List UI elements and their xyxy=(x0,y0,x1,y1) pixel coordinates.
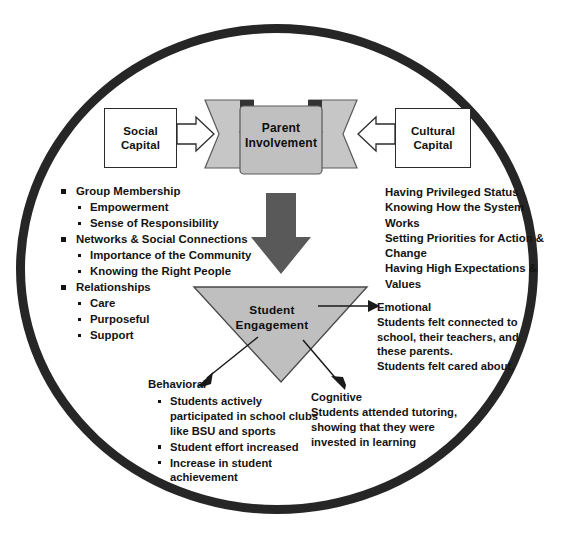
list-item: Group Membership xyxy=(60,184,260,199)
square-bullet-icon xyxy=(78,270,81,273)
list-item: Purposeful xyxy=(60,312,260,327)
emotional-body-line: Students felt connected to school, their… xyxy=(377,315,537,359)
list-item-label: Sense of Responsibility xyxy=(90,217,219,229)
square-bullet-icon xyxy=(78,206,81,209)
cognitive-body-line: Students attended tutoring, showing that… xyxy=(311,405,461,450)
square-bullet-icon xyxy=(78,254,81,257)
emotional-heading: Emotional xyxy=(377,300,537,315)
cultural-capital-attributes-list: Having Privileged Status Knowing How the… xyxy=(385,185,553,292)
list-item: Student effort increased xyxy=(158,440,326,455)
emotional-branch: Emotional Students felt connected to sch… xyxy=(377,300,537,374)
cultural-attribute-line: Having High Expectations & Values xyxy=(385,261,553,292)
list-item-label: Support xyxy=(90,329,134,341)
square-bullet-icon xyxy=(78,302,81,305)
list-item: Care xyxy=(60,296,260,311)
list-item: Support xyxy=(60,328,260,343)
cultural-attribute-line: Knowing How the System Works xyxy=(385,200,553,231)
list-item: Empowerment xyxy=(60,200,260,215)
square-bullet-icon xyxy=(78,318,81,321)
list-item: Sense of Responsibility xyxy=(60,216,260,231)
list-item-label: Increase in student achievement xyxy=(170,457,272,484)
diagram-canvas: Social Capital Cultural Capital Parent I… xyxy=(0,0,561,543)
list-item: Knowing the Right People xyxy=(60,264,260,279)
parent-involvement-line-2: Involvement xyxy=(236,136,326,151)
square-bullet-icon xyxy=(61,237,66,242)
social-capital-box[interactable]: Social Capital xyxy=(104,108,177,168)
list-item-label: Knowing the Right People xyxy=(90,265,231,277)
list-item-label: Empowerment xyxy=(90,201,168,213)
list-item-label: Care xyxy=(90,297,115,309)
social-capital-line-1: Social xyxy=(123,124,157,138)
list-item: Students actively participated in school… xyxy=(158,394,326,439)
list-item-label: Students actively participated in school… xyxy=(170,395,318,437)
square-bullet-icon xyxy=(158,400,161,403)
social-capital-line-2: Capital xyxy=(121,138,160,152)
square-bullet-icon xyxy=(158,445,161,448)
cultural-attribute-line: Setting Priorities for Action & Change xyxy=(385,231,553,262)
behavioral-branch-list: Students actively participated in school… xyxy=(158,394,326,486)
list-item: Relationships xyxy=(60,280,260,295)
cultural-capital-box[interactable]: Cultural Capital xyxy=(395,108,471,168)
square-bullet-icon xyxy=(158,461,161,464)
cognitive-branch: Cognitive Students attended tutoring, sh… xyxy=(311,390,461,450)
parent-involvement-label[interactable]: Parent Involvement xyxy=(236,121,326,151)
list-item-label: Group Membership xyxy=(76,185,180,197)
list-item-label: Networks & Social Connections xyxy=(76,233,248,245)
list-item-label: Purposeful xyxy=(90,313,150,325)
emotional-body-line: Students felt cared about. xyxy=(377,359,537,374)
list-item: Increase in student achievement xyxy=(158,456,326,486)
square-bullet-icon xyxy=(61,189,66,194)
parent-involvement-line-1: Parent xyxy=(236,121,326,136)
list-item-label: Importance of the Community xyxy=(90,249,251,261)
behavioral-heading: Behavioral xyxy=(148,378,206,390)
square-bullet-icon xyxy=(78,222,81,225)
cultural-capital-line-2: Capital xyxy=(413,138,452,152)
list-item: Networks & Social Connections xyxy=(60,232,260,247)
square-bullet-icon xyxy=(78,334,81,337)
cultural-attribute-line: Having Privileged Status xyxy=(385,185,553,200)
square-bullet-icon xyxy=(61,285,66,290)
social-capital-attributes-list: Group Membership Empowerment Sense of Re… xyxy=(60,184,260,344)
list-item-label: Student effort increased xyxy=(170,441,299,453)
list-item-label: Relationships xyxy=(76,281,151,293)
list-item: Importance of the Community xyxy=(60,248,260,263)
cultural-capital-line-1: Cultural xyxy=(411,124,455,138)
cognitive-heading: Cognitive xyxy=(311,390,461,405)
